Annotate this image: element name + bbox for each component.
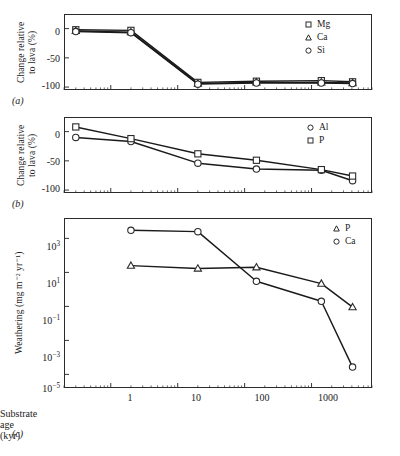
x-axis-tick-1: 1 [114, 392, 146, 403]
panel-c-legend-label-p: P [345, 222, 350, 235]
x-axis-tick-10: 10 [180, 392, 212, 403]
panel-c-point-ca [253, 278, 259, 284]
triangle-marker-icon [332, 224, 341, 233]
panel-c-legend-item-p: P [332, 222, 356, 235]
panel-c-label: (c) [12, 428, 23, 439]
panel-c-series-ca [128, 227, 356, 370]
figure-three-panel-weathering: Change relative to lava (%) 0 -50 -100 M… [0, 0, 400, 456]
panel-c-legend: P Ca [332, 222, 356, 248]
panel-c-point-ca [318, 298, 324, 304]
x-axis-tick-100: 100 [246, 392, 278, 403]
x-axis-tick-1000: 1000 [312, 392, 344, 403]
panel-c-point-ca [128, 227, 134, 233]
circle-marker-icon [332, 237, 341, 246]
panel-c-point-ca [349, 364, 355, 370]
panel-c-point-ca [195, 228, 201, 234]
panel-c-legend-item-ca: Ca [332, 235, 356, 248]
panel-c-legend-label-ca: Ca [345, 235, 356, 248]
